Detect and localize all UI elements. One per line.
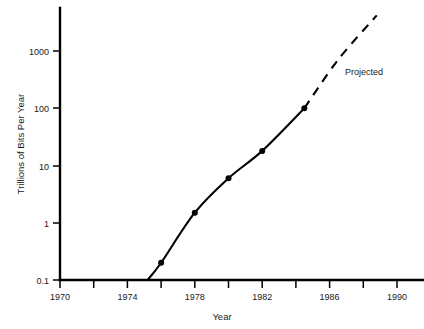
data-point-marker [226,175,232,181]
x-tick-label-1990: 1990 [387,292,407,302]
y-tick-label-1000: 1000 [29,47,49,57]
data-point-marker [158,260,164,266]
x-tick-label-1970: 1970 [50,292,70,302]
data-point-marker [192,210,198,216]
chart-plot-area: 1000 100 10 1 0.1 1970 1974 1978 1982 19… [0,0,424,329]
data-series-projected [304,15,376,108]
projected-annotation-label: Projected [345,67,383,77]
x-tick-label-1978: 1978 [185,292,205,302]
data-point-marker [301,105,307,111]
x-tick-label-1974: 1974 [117,292,137,302]
y-axis-title: Trillions of Bits Per Year [15,94,26,195]
x-tick-label-1986: 1986 [320,292,340,302]
x-tick-label-1982: 1982 [252,292,272,302]
y-tick-label-100: 100 [34,104,49,114]
y-tick-label-0.1: 0.1 [36,276,49,286]
x-axis-title: Year [212,311,231,322]
chart-figure: 1000 100 10 1 0.1 1970 1974 1978 1982 19… [0,0,424,329]
y-tick-label-1: 1 [44,219,49,229]
data-series-actual [148,108,305,280]
data-point-marker [259,148,265,154]
y-tick-label-10: 10 [39,162,49,172]
